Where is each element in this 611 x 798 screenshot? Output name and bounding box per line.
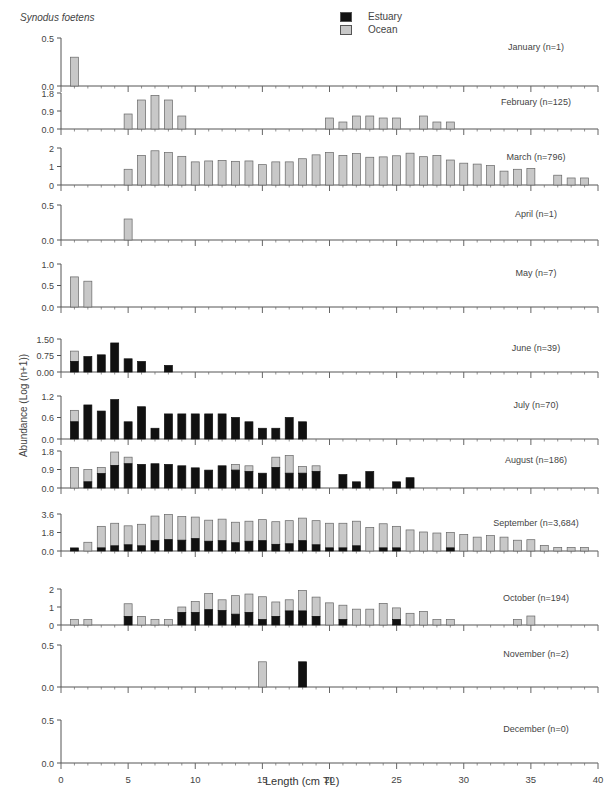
estuary-bar [326,548,334,551]
y-tick-label: 0.0 [41,236,54,246]
ocean-bar [339,605,347,619]
ocean-bar [352,609,360,625]
estuary-bar [232,543,240,551]
ocean-bar [70,277,78,307]
estuary-bar [111,546,119,551]
estuary-bar [299,611,307,625]
panel-label: October (n=194) [503,593,569,603]
ocean-bar [393,156,401,185]
y-tick-label: 1.8 [41,89,54,99]
y-tick-label: 1 [49,603,54,613]
ocean-bar [312,597,320,616]
ocean-bar [299,590,307,611]
ocean-bar [164,153,172,185]
estuary-bar [285,418,293,440]
estuary-bar [272,616,280,625]
y-tick-label: 1 [49,162,54,172]
y-tick-label: 0.6 [41,413,54,423]
ocean-bar [245,594,253,612]
ocean-bar [285,521,293,544]
estuary-bar [258,428,266,439]
y-tick-label: 0.9 [41,107,54,117]
ocean-bar [84,620,92,625]
ocean-bar [258,165,266,185]
ocean-bar [581,547,589,551]
panel-label: December (n=0) [503,724,568,734]
estuary-bar [339,475,347,488]
ocean-bar [433,620,441,625]
ocean-bar [138,100,146,129]
ocean-bar [419,157,427,185]
ocean-bar [191,517,199,539]
ocean-bar [352,116,360,129]
estuary-bar [191,539,199,551]
ocean-bar [151,516,159,541]
estuary-bar [70,361,78,372]
ocean-bar [70,620,78,625]
ocean-bar [339,155,347,185]
y-tick-label: 3.6 [41,510,54,520]
estuary-bar [138,407,146,439]
estuary-bar [178,540,186,551]
estuary-bar [245,422,253,439]
estuary-bar [164,540,172,551]
ocean-bar [232,464,240,470]
estuary-bar [232,418,240,440]
ocean-bar [513,620,521,625]
y-tick-label: 0.0 [41,683,54,693]
estuary-bar [379,548,387,551]
y-tick-label: 1.8 [41,447,54,457]
ocean-bar [258,597,266,620]
ocean-bar [272,457,280,467]
ocean-bar [312,155,320,185]
ocean-bar [299,518,307,541]
estuary-bar [124,545,132,551]
ocean-bar [487,536,495,551]
panel-label: March (n=796) [507,152,566,162]
estuary-bar [272,428,280,439]
ocean-bar [70,467,78,488]
ocean-bar [258,662,266,687]
ocean-bar [513,540,521,551]
estuary-bar [97,474,105,488]
x-tick-label: 30 [458,774,469,785]
ocean-bar [379,524,387,548]
ocean-bar [326,153,334,185]
ocean-bar [446,160,454,185]
panel-august: 0.00.91.8August (n=186) [41,447,598,495]
estuary-bar [111,400,119,439]
panel-june: 0.000.751.50June (n=39) [36,335,598,379]
ocean-bar [124,457,132,464]
ocean-bar [232,522,240,543]
estuary-bar [84,357,92,372]
ocean-bar [339,122,347,129]
y-tick-label: 0.0 [41,547,54,557]
estuary-bar [151,464,159,488]
y-tick-label: 0.0 [41,484,54,494]
y-tick-label: 0.5 [41,641,54,651]
ocean-bar [540,545,548,551]
panel-label: May (n=7) [516,268,557,278]
ocean-bar [473,164,481,185]
x-tick-label: 25 [391,774,402,785]
estuary-bar [151,541,159,551]
y-tick-label: 1.50 [36,335,54,345]
ocean-bar [151,95,159,129]
ocean-bar [326,523,334,548]
ocean-bar [366,116,374,129]
y-tick-label: 0.5 [41,201,54,211]
estuary-bar [151,428,159,439]
y-tick-label: 0.0 [41,303,54,313]
estuary-bar [205,470,213,488]
ocean-bar [178,116,186,129]
estuary-bar [205,541,213,551]
estuary-bar [299,662,307,687]
y-tick-label: 0.00 [36,368,54,378]
ocean-bar [527,540,535,551]
estuary-bar [446,548,454,551]
estuary-bar [70,548,78,551]
estuary-bar [124,359,132,372]
ocean-bar [500,171,508,185]
y-tick-label: 2 [49,144,54,154]
ocean-bar [419,116,427,129]
